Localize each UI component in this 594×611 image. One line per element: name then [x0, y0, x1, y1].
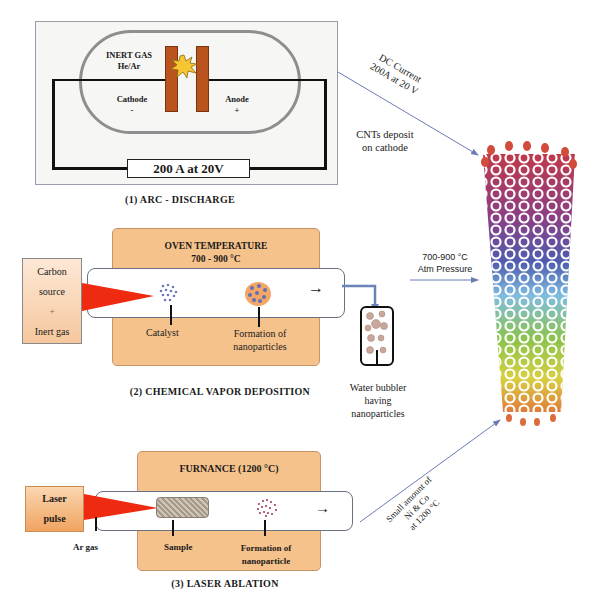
carbon-nanotube-illustration [475, 140, 585, 430]
cnt-deposit-label: CNTs deposit on cathode [345, 128, 425, 154]
cvd-conditions-label: 700-900 °C Atm Pressure [405, 251, 485, 275]
